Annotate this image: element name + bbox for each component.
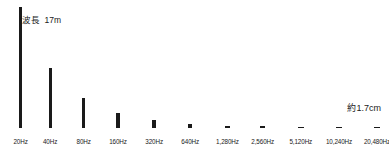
bar-10240hz [336,127,342,128]
bar-160hz [116,113,120,128]
x-tick-1280hz: 1,280Hz [216,138,239,145]
last-bar-annotation: 約1.7cm [347,101,381,114]
bar-1280hz [225,126,230,128]
x-tick-10240hz: 10,240Hz [326,138,352,145]
bar-640hz [188,124,192,128]
bar-40hz [49,68,52,129]
x-tick-20480hz: 20,480Hz [364,138,389,145]
x-tick-320hz: 320Hz [145,138,163,145]
first-wavelength-value: 17m [45,15,62,25]
bar-20480hz [374,127,380,128]
bar-20hz [19,7,22,128]
first-bar-annotation: 波長17m [22,13,61,25]
x-tick-640hz: 640Hz [181,138,199,145]
x-tick-40hz: 40Hz [43,138,57,145]
x-tick-20hz: 20Hz [13,138,27,145]
x-tick-160hz: 160Hz [109,138,127,145]
wavelength-frequency-chart: 20Hz 40Hz 80Hz 160Hz 320Hz 640Hz 1,280Hz… [0,0,389,152]
bar-80hz [82,98,85,128]
bar-2560hz [260,126,265,128]
x-tick-80hz: 80Hz [77,138,91,145]
x-tick-2560hz: 2,560Hz [251,138,274,145]
plot-area: 20Hz 40Hz 80Hz 160Hz 320Hz 640Hz 1,280Hz… [0,0,389,152]
x-tick-5120hz: 5,120Hz [289,138,312,145]
bar-320hz [152,120,156,128]
wavelength-label: 波長 [22,15,41,25]
bar-5120hz [298,127,304,128]
